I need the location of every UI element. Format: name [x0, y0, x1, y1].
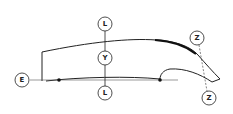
svg-text:Z: Z	[194, 34, 199, 42]
svg-text:L: L	[103, 89, 108, 97]
label-bottom-z: Z	[202, 91, 216, 105]
svg-text:Y: Y	[101, 54, 108, 62]
profile-outline-bottom	[46, 77, 160, 81]
profile-outline-top	[42, 40, 220, 83]
profile-diagram: L Y L E Z Z	[0, 0, 233, 114]
label-middle-y: Y	[98, 51, 112, 65]
thick-edge-segment	[155, 40, 196, 54]
label-bottom-l: L	[98, 86, 112, 100]
point-left	[57, 78, 61, 82]
svg-text:E: E	[20, 76, 25, 84]
point-right	[158, 78, 162, 82]
svg-text:L: L	[103, 20, 108, 28]
label-left-e: E	[15, 73, 29, 87]
label-top-l: L	[98, 17, 112, 31]
svg-text:Z: Z	[206, 94, 211, 102]
z-dashed-line	[199, 45, 207, 91]
label-top-z: Z	[190, 31, 204, 45]
